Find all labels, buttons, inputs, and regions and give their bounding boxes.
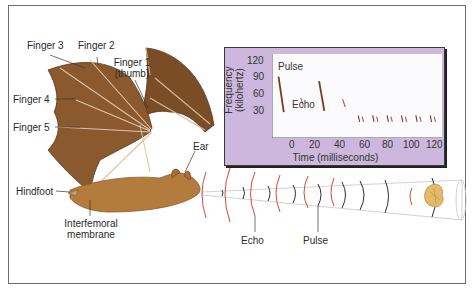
y-tick: 30 — [253, 106, 264, 116]
x-tick: 0 — [289, 140, 295, 150]
label-finger-2: Finger 2 — [78, 40, 115, 51]
pulse-trace — [319, 81, 324, 111]
label-echo: Echo — [241, 235, 264, 246]
pulse-arcs — [202, 168, 412, 222]
pulse-trace — [416, 115, 417, 121]
pulse-trace — [358, 115, 359, 121]
label-finger-5: Finger 5 — [13, 122, 50, 133]
pulse-trace — [387, 115, 388, 121]
label-interfemoral-membrane: Interfemoral membrane — [60, 218, 122, 240]
pulse-trace — [373, 115, 374, 121]
annotation-pulse: Pulse — [278, 62, 303, 72]
echo-arcs — [222, 178, 436, 217]
echo-trace — [405, 117, 406, 122]
x-tick: 80 — [382, 140, 393, 150]
spectrogram-panel: Frequency (kilohertz) Pulse Echo 120 90 … — [224, 47, 445, 166]
x-tick: 100 — [403, 140, 420, 150]
pulse-trace — [401, 115, 402, 121]
echo-trace — [343, 99, 346, 107]
x-tick: 20 — [309, 140, 320, 150]
label-finger-4: Finger 4 — [13, 94, 50, 105]
pulse-trace — [430, 115, 431, 121]
label-pulse: Pulse — [303, 235, 328, 246]
y-tick: 60 — [253, 89, 264, 99]
x-tick: 60 — [359, 140, 370, 150]
echo-trace — [434, 117, 435, 122]
echo-trace — [362, 117, 363, 122]
x-tick: 40 — [334, 140, 345, 150]
label-finger-3: Finger 3 — [27, 40, 64, 51]
x-axis-label: Time (milliseconds) — [225, 152, 446, 163]
annotation-echo: Echo — [292, 100, 315, 110]
x-tick: 120 — [426, 140, 443, 150]
y-tick: 120 — [247, 56, 264, 66]
label-ear: Ear — [193, 141, 209, 152]
label-finger-1: Finger 1 (thumb) — [112, 57, 152, 79]
moth-icon — [425, 184, 444, 207]
label-hindfoot: Hindfoot — [16, 186, 53, 197]
echo-trace — [377, 117, 378, 122]
y-tick: 90 — [253, 72, 264, 82]
spectrogram-plot: Pulse Echo — [272, 54, 442, 138]
echo-trace — [391, 117, 392, 122]
y-axis-label: Frequency (kilohertz) — [223, 54, 245, 126]
echo-trace — [420, 117, 421, 122]
pulse-trace — [279, 77, 284, 113]
